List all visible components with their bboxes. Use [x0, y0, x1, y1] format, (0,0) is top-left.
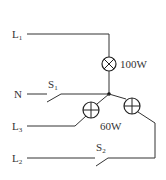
- lamp-100w-rating: 100W: [120, 58, 148, 70]
- lamp-60w-right: [124, 98, 140, 114]
- line-l3: L3: [12, 116, 86, 134]
- switch-s1-blade: [47, 94, 61, 102]
- lamp-60w-rating: 60W: [100, 120, 122, 132]
- lamp-60w-left: [83, 102, 99, 118]
- wire-junction-to-right-lamp: [109, 94, 126, 99]
- label-l3: L3: [12, 120, 23, 134]
- line-l1: L1: [12, 28, 109, 57]
- switch-s2: S2: [96, 141, 108, 166]
- label-s2: S2: [96, 141, 106, 155]
- label-s1: S1: [48, 78, 58, 92]
- line-l2: L2: [12, 152, 95, 166]
- wire-junction-to-left-lamp: [97, 94, 109, 104]
- wire-l3: [27, 116, 86, 126]
- label-l1: L1: [12, 28, 23, 42]
- label-l2: L2: [12, 152, 23, 166]
- label-n: N: [14, 88, 22, 100]
- circuit-diagram: L1 100W N S1 60W L3: [0, 0, 166, 180]
- switch-s1: S1: [47, 78, 109, 102]
- wire-right-lamp-to-s2: [108, 112, 155, 158]
- line-n: N: [14, 88, 47, 100]
- switch-s2-blade: [96, 158, 108, 166]
- lamp-100w: 100W: [102, 57, 148, 71]
- wire-l1: [27, 34, 109, 57]
